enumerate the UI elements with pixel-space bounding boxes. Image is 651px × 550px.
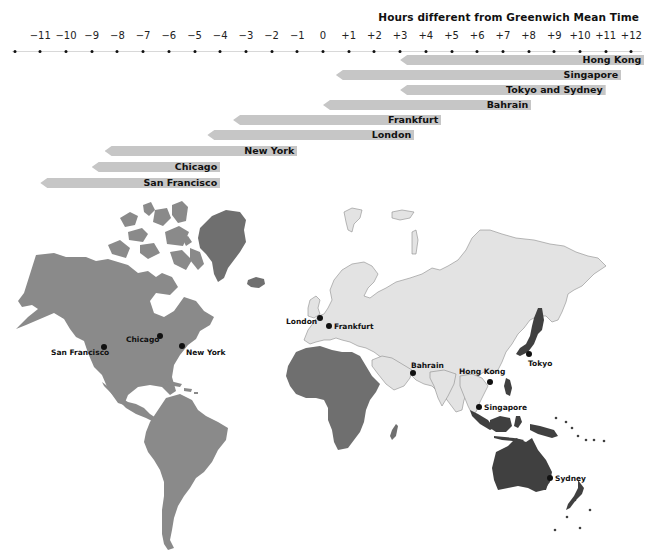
tick-label: +11 — [595, 30, 616, 41]
tick-dot — [142, 50, 145, 53]
time-bar: Bahrain — [323, 100, 531, 110]
tick-label: +2 — [367, 30, 382, 41]
bar-label: New York — [244, 145, 294, 157]
tick-label: +8 — [521, 30, 536, 41]
madagascar-shape — [390, 424, 398, 440]
bar-label: Chicago — [175, 161, 217, 173]
sydney-marker — [547, 475, 553, 481]
tick-label: −2 — [264, 30, 279, 41]
frankfurt-marker — [326, 323, 332, 329]
tick-label: −4 — [213, 30, 228, 41]
bahrain-marker — [410, 370, 416, 376]
tick-label: −8 — [110, 30, 125, 41]
time-bar: Singapore — [336, 70, 621, 80]
tick-label: −5 — [187, 30, 202, 41]
time-bar: Tokyo and Sydney — [400, 85, 606, 95]
time-bar: Hong Kong — [400, 55, 644, 65]
tick-dot — [167, 50, 170, 53]
tick-label: +10 — [569, 30, 590, 41]
bar-label: London — [372, 129, 411, 141]
south-america-shape — [144, 394, 228, 550]
tick-dot — [450, 50, 453, 53]
north-america-shape — [16, 253, 214, 405]
tick-dot — [116, 50, 119, 53]
tick-label: +9 — [547, 30, 562, 41]
tick-label: 0 — [320, 30, 326, 41]
tick-dot — [527, 50, 530, 53]
tick-label: +3 — [393, 30, 408, 41]
london-label: London — [286, 317, 317, 326]
eurasia-arctic-islands — [344, 208, 418, 254]
hong-kong-label: Hong Kong — [459, 367, 505, 376]
tick-dot — [322, 50, 325, 53]
tick-label: −3 — [239, 30, 254, 41]
tick-dot — [39, 50, 42, 53]
tick-dot — [347, 50, 350, 53]
tasmania-shape — [542, 484, 548, 490]
tick-label: +12 — [621, 30, 642, 41]
iceland-shape — [247, 277, 265, 288]
chicago-label: Chicago — [126, 335, 159, 344]
singapore-label: Singapore — [484, 403, 527, 412]
tick-dot — [219, 50, 222, 53]
london-marker — [317, 315, 323, 321]
tick-dot — [373, 50, 376, 53]
new-york-marker — [179, 343, 185, 349]
tick-dot — [13, 50, 16, 53]
new-york-label: New York — [186, 348, 226, 357]
tick-dot — [296, 50, 299, 53]
tick-dot — [244, 50, 247, 53]
sydney-label: Sydney — [555, 474, 586, 483]
british-isles-shape — [308, 296, 320, 318]
time-axis: −11−10−9−8−7−6−5−4−3−2−10+1+2+3+4+5+6+7+… — [0, 0, 651, 60]
hong-kong-marker — [487, 379, 493, 385]
axis-line — [12, 51, 642, 52]
tick-dot — [193, 50, 196, 53]
tick-label: +6 — [470, 30, 485, 41]
san-francisco-label: San Francisco — [51, 348, 109, 357]
new-zealand-shape — [566, 480, 584, 510]
frankfurt-label: Frankfurt — [334, 322, 374, 331]
tick-label: +5 — [444, 30, 459, 41]
tick-dot — [604, 50, 607, 53]
bar-label: Bahrain — [487, 99, 529, 111]
tick-label: +4 — [418, 30, 433, 41]
tick-dot — [424, 50, 427, 53]
bar-label: Tokyo and Sydney — [506, 84, 603, 96]
time-bar: London — [207, 130, 414, 140]
tick-dot — [65, 50, 68, 53]
bar-label: Singapore — [564, 69, 619, 81]
tick-label: −7 — [136, 30, 151, 41]
tick-dot — [90, 50, 93, 53]
tick-dot — [399, 50, 402, 53]
arctic-islands — [108, 201, 204, 270]
tick-label: −9 — [84, 30, 99, 41]
australia-shape — [492, 438, 552, 492]
tick-label: +1 — [341, 30, 356, 41]
tick-dot — [476, 50, 479, 53]
time-bar: Chicago — [92, 162, 221, 172]
bar-label: San Francisco — [143, 177, 217, 189]
tick-dot — [579, 50, 582, 53]
tick-label: +7 — [496, 30, 511, 41]
time-bar: Frankfurt — [233, 115, 441, 125]
tick-label: −11 — [30, 30, 51, 41]
tokyo-label: Tokyo — [528, 359, 552, 368]
singapore-marker — [476, 404, 482, 410]
tick-dot — [270, 50, 273, 53]
tick-label: −10 — [55, 30, 76, 41]
tick-label: −6 — [161, 30, 176, 41]
bar-label: Frankfurt — [388, 114, 438, 126]
time-bar: New York — [105, 146, 298, 156]
world-map: San Francisco Chicago New York London Fr… — [0, 195, 651, 550]
tokyo-marker — [526, 351, 532, 357]
tick-label: −1 — [290, 30, 305, 41]
tick-dot — [630, 50, 633, 53]
greenland-shape — [198, 210, 246, 282]
time-bar: San Francisco — [40, 178, 220, 188]
bahrain-label: Bahrain — [411, 361, 444, 370]
tick-dot — [553, 50, 556, 53]
africa-shape — [286, 346, 380, 450]
tick-dot — [501, 50, 504, 53]
bar-label: Hong Kong — [583, 54, 642, 66]
